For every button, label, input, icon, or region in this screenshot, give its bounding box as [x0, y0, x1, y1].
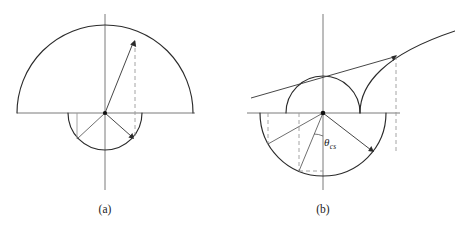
theta-subscript: cs	[330, 142, 336, 151]
panel-b-lower-right-vector-arrowhead	[368, 146, 374, 152]
figure-root: (a)	[0, 0, 455, 232]
panel-b-origin-dot	[321, 111, 326, 116]
panel-a-lower-left-ray	[77, 113, 105, 139]
panel-a-upper-vector	[105, 43, 133, 113]
figure-canvas: (a)	[0, 0, 455, 232]
panel-a: (a)	[17, 14, 195, 216]
panel-b: θcs (b)	[247, 14, 455, 216]
panel-a-lower-vector	[105, 113, 131, 136]
panel-b-spiral-vector	[251, 57, 394, 98]
panel-a-origin-dot	[103, 111, 107, 115]
panel-a-caption: (a)	[99, 203, 112, 216]
panel-b-angle-arc	[314, 134, 323, 136]
panel-b-caption: (b)	[316, 203, 330, 216]
panel-b-lower-left-ray	[268, 113, 323, 144]
panel-b-angle-label: θcs	[324, 136, 336, 151]
panel-b-outward-spiral-curve	[360, 31, 455, 113]
panel-b-lower-steep-ray	[299, 113, 323, 171]
